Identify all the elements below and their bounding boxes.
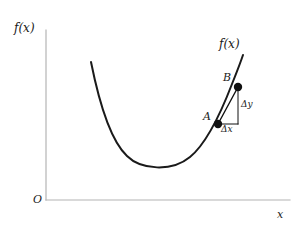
x-axis-label: x	[277, 209, 283, 220]
point-b-label: B	[223, 72, 231, 83]
secant-line-figure: f(x) x O f(x) A B Δx Δy	[0, 0, 304, 230]
delta-y-label: Δy	[241, 100, 253, 109]
function-curve	[91, 55, 243, 167]
y-axis-label: f(x)	[14, 22, 35, 34]
delta-x-label: Δx	[221, 125, 233, 134]
point-b-marker	[234, 83, 242, 91]
origin-label: O	[33, 194, 42, 205]
figure-canvas	[0, 0, 304, 230]
curve-label: f(x)	[219, 38, 240, 50]
point-a-label: A	[203, 111, 211, 122]
